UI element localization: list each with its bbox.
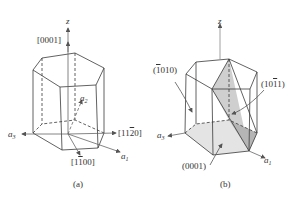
a3-axis-label-a: a3 <box>8 130 16 140</box>
plane-minus1010-label: (1010) <box>153 66 177 75</box>
dir-1100-post: 00] <box>83 157 95 167</box>
dir-1120-post: 0] <box>134 128 142 138</box>
plane-1010-post: 010) <box>161 65 178 75</box>
caption-b: (b) <box>220 180 231 189</box>
caption-a: (a) <box>73 180 83 189</box>
direction-1-100-label: [1100] <box>71 158 95 167</box>
direction-11-20-label: [1120] <box>118 129 142 138</box>
a1-subscript-b: 1 <box>269 160 272 166</box>
hcp-diagram-canvas <box>0 0 296 199</box>
a1-axis-label-a: a1 <box>121 152 129 162</box>
a2-subscript: 2 <box>85 98 88 104</box>
a3-subscript: 3 <box>13 134 16 140</box>
a3-subscript-b: 3 <box>162 135 165 141</box>
dir-1120-pre: [11 <box>118 128 130 138</box>
plane-0001-label: (0001) <box>182 162 206 171</box>
direction-0001-label: [0001] <box>37 36 61 45</box>
z-axis-label-b: z <box>218 17 222 26</box>
panel-b-hexagonal-prism <box>168 24 265 165</box>
plane-10-11-label: (1011) <box>261 80 285 89</box>
plane-1011-post: 1) <box>277 79 285 89</box>
a1-axis-label-b: a1 <box>264 156 272 166</box>
panel-a-hexagonal-prism <box>22 28 120 155</box>
a1-subscript: 1 <box>126 156 129 162</box>
plane-1011-pre: (10 <box>261 79 273 89</box>
z-axis-label-a: z <box>66 17 70 26</box>
a2-axis-label: a2 <box>80 94 88 104</box>
a3-axis-label-b: a3 <box>157 131 165 141</box>
